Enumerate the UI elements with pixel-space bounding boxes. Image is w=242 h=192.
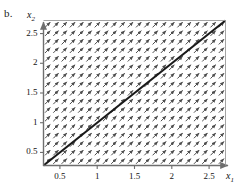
x-tick-label: 2 xyxy=(158,171,186,181)
y-tick-label: 1.5 xyxy=(10,87,38,97)
y-tick-label: 2.5 xyxy=(10,28,38,38)
x-tick-label: 0.5 xyxy=(46,171,74,181)
x-axis-label: x1 xyxy=(226,170,234,184)
x-tick-label: 1.5 xyxy=(121,171,149,181)
y-axis-label: x2 xyxy=(27,9,35,23)
x-tick-label: 2.5 xyxy=(195,171,223,181)
y-tick-label: 1 xyxy=(10,117,38,127)
x-axis-label-subscript: 1 xyxy=(230,176,234,184)
panel-label: b. xyxy=(4,7,13,19)
y-axis-label-subscript: 2 xyxy=(31,15,35,23)
figure-panel-b: b. x2 x1 0.511.522.50.511.522.5 xyxy=(0,0,242,192)
x-tick-label: 1 xyxy=(83,171,111,181)
y-tick-label: 0.5 xyxy=(10,146,38,156)
y-tick-label: 2 xyxy=(10,57,38,67)
